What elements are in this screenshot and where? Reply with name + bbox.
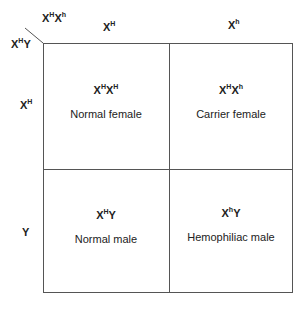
cell-carrier-female: XHXh Carrier female — [169, 84, 293, 120]
phenotype: Normal female — [44, 108, 168, 120]
phenotype: Normal male — [44, 233, 168, 245]
row-header-1: XH — [20, 99, 32, 111]
cell-hemophiliac-male: XhY Hemophiliac male — [169, 207, 293, 243]
genotype: XHXh — [169, 84, 293, 96]
corner-left-label-father: XHY — [11, 38, 31, 50]
cell-normal-female: XHXH Normal female — [44, 84, 168, 120]
genotype: XHXH — [44, 84, 168, 96]
genotype: XhY — [169, 207, 293, 219]
phenotype: Carrier female — [169, 108, 293, 120]
row-header-2: Y — [22, 226, 29, 238]
genotype: XHY — [44, 209, 168, 221]
grid-horizontal-divider — [44, 169, 292, 170]
grid-vertical-divider — [169, 44, 170, 292]
column-header-2: Xh — [228, 19, 240, 31]
phenotype: Hemophiliac male — [169, 231, 293, 243]
corner-top-label-mother: XHXh — [42, 12, 66, 24]
cell-normal-male: XHY Normal male — [44, 209, 168, 245]
punnett-square-grid: XHXH Normal female XHXh Carrier female X… — [43, 43, 293, 293]
column-header-1: XH — [103, 21, 115, 33]
